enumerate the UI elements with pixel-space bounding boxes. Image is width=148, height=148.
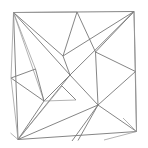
geometric-line-drawing	[0, 0, 148, 148]
geometric-figure-canvas: Abstract geometric line figure A slightl…	[0, 0, 148, 148]
line-segment-s01	[14, 12, 78, 13]
